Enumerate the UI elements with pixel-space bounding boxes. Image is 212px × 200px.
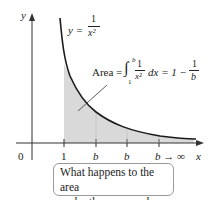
- callout-line-2: under the curve as b → ∞ ?: [60, 195, 173, 200]
- x-axis-label: x: [196, 151, 201, 162]
- question-callout: What happens to the area under the curve…: [53, 163, 174, 196]
- tick-label-1: 1: [61, 151, 67, 162]
- integral-sign-icon: ∫: [124, 60, 128, 76]
- y-axis-arrow-icon: [29, 13, 35, 21]
- curve-label-lhs: y =: [68, 25, 83, 36]
- callout-line-1: What happens to the area: [60, 165, 173, 195]
- rhs-num: 1: [192, 59, 197, 69]
- origin-label: 0: [18, 151, 24, 162]
- area-label-prefix: Area =: [92, 67, 122, 78]
- tick-label-b1: b: [93, 151, 99, 162]
- tick-label-b-infinity: b → ∞: [155, 151, 185, 162]
- integral-lower: 1: [128, 79, 132, 86]
- integral-upper: b: [132, 57, 136, 64]
- x-axis-arrow-icon: [196, 140, 204, 146]
- tick-label-b2: b: [124, 151, 130, 162]
- y-axis-label: y: [21, 10, 26, 21]
- area-label-dx: dx = 1 −: [148, 67, 187, 78]
- curve-label-den: x²: [88, 28, 95, 38]
- integrand-den: x²: [135, 72, 142, 81]
- curve-label-num: 1: [91, 14, 96, 24]
- integrand-num: 1: [137, 59, 142, 69]
- rhs-den: b: [191, 72, 196, 82]
